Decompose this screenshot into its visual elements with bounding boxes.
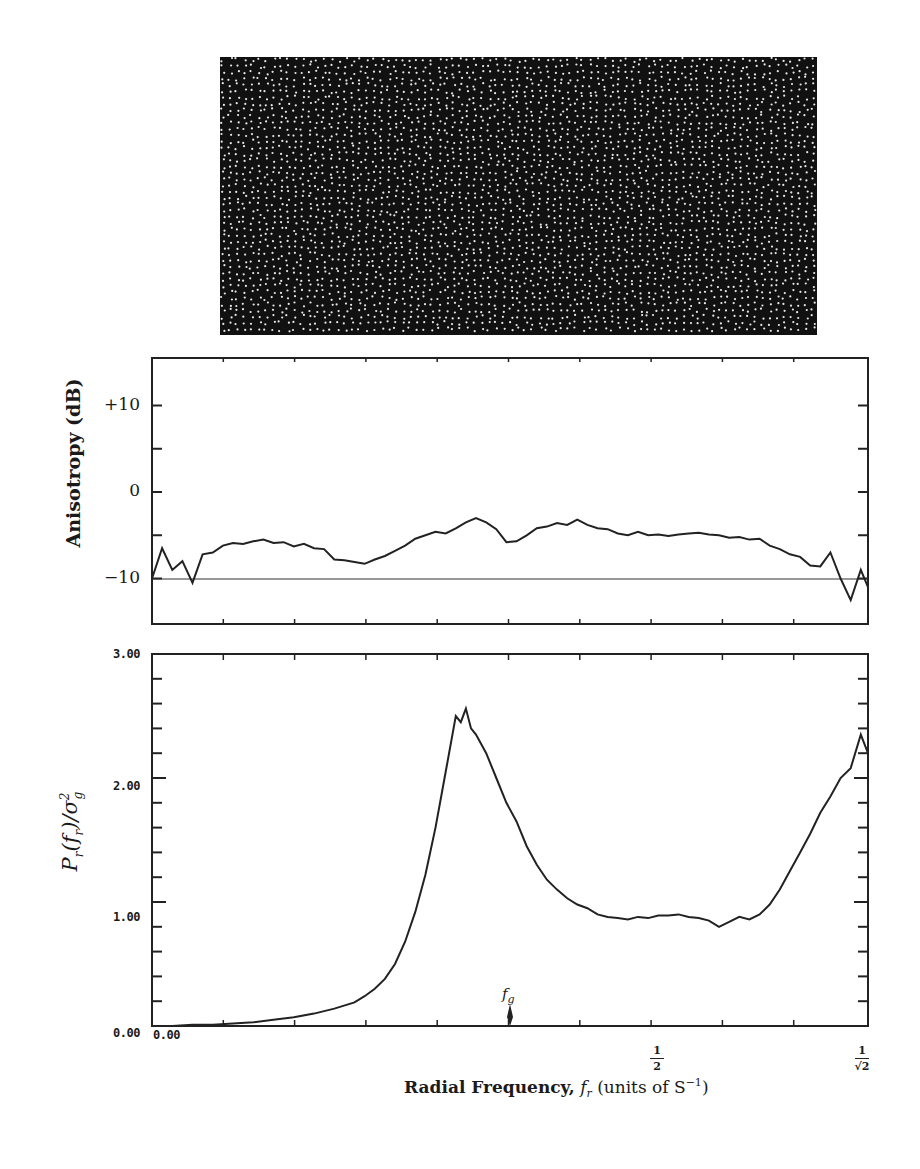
power-y-axis-label: Pr(fr)/σ2g <box>58 752 85 912</box>
aniso-tick-minus10: −10 <box>80 567 140 587</box>
anisotropy-ticks <box>152 358 868 624</box>
fg-annotation-label: fg <box>502 985 515 1006</box>
power-tick-3: 3.00 <box>80 647 140 661</box>
power-ticks <box>152 654 868 1026</box>
anisotropy-curve <box>152 518 868 600</box>
x-tick-origin: 0.00 <box>120 1028 180 1042</box>
x-tick-one-over-root2: 1√2 <box>847 1044 877 1073</box>
power-spectrum-curve <box>152 709 868 1026</box>
power-tick-2: 2.00 <box>80 779 140 793</box>
x-axis-label: Radial Frequency, fr (units of S−1) <box>404 1076 709 1100</box>
aniso-tick-plus10: +10 <box>80 394 140 414</box>
x-tick-one-half: 12 <box>642 1044 672 1073</box>
power-frame <box>152 654 868 1026</box>
aniso-tick-0: 0 <box>80 480 140 500</box>
power-tick-1: 1.00 <box>80 910 140 924</box>
anisotropy-frame <box>152 358 868 624</box>
